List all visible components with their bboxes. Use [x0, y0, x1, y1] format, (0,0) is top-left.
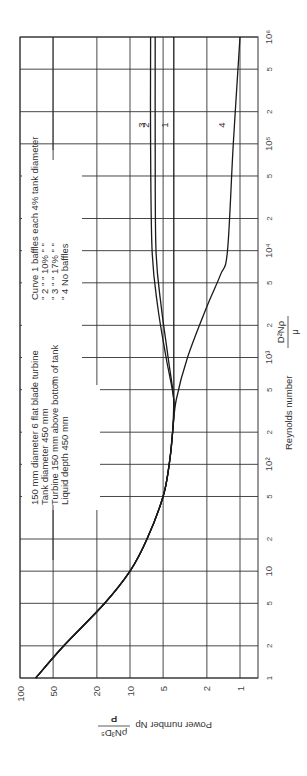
y-formula-denominator: ρN³D⁵: [101, 728, 127, 739]
reynolds-tick-label: 10³: [263, 351, 274, 365]
reynolds-tick-label: 2: [265, 216, 274, 221]
y-formula-numerator: P: [110, 714, 117, 725]
curve-label-3: 3: [136, 122, 147, 127]
np-tick-label: 100: [15, 686, 26, 702]
reynolds-tick-label: 10⁵: [263, 136, 274, 151]
reynolds-tick-label: 1: [265, 675, 274, 680]
reynolds-tick-label: 10⁶: [263, 30, 274, 45]
reynolds-tick-label: 5: [265, 280, 274, 285]
legend-item-4: " 4 No baffles: [59, 243, 70, 300]
annotation-line-4: Liquid depth 450 mm: [59, 416, 70, 505]
np-tick-label: 2: [201, 686, 212, 691]
reynolds-tick-label: 5: [265, 387, 274, 392]
reynolds-ticks: 125102510²2510³2510⁴2510⁵2510⁶: [263, 30, 274, 681]
reynolds-tick-label: 5: [265, 66, 274, 71]
reynolds-tick-label: 5: [265, 173, 274, 178]
np-tick-label: 20: [91, 686, 102, 697]
reynolds-tick-label: 2: [265, 536, 274, 541]
reynolds-tick-label: 2: [265, 429, 274, 434]
np-tick-label: 50: [48, 686, 59, 697]
curve-labels: 1234: [136, 122, 228, 127]
reynolds-tick-label: 2: [265, 109, 274, 114]
x-axis-title: Reynolds number D²Nρ μ: [275, 316, 300, 450]
x-formula-denominator: μ: [289, 329, 300, 334]
reynolds-tick-label: 2: [265, 323, 274, 328]
reynolds-tick-label: 5: [265, 601, 274, 606]
reynolds-tick-label: 10²: [263, 457, 274, 471]
reynolds-tick-label: 10⁴: [263, 243, 274, 258]
np-tick-label: 1: [235, 686, 246, 691]
curve-label-1: 1: [159, 122, 170, 127]
power-number-chart: 1234 125102510²2510³2510⁴2510⁵2510⁶ 1005…: [0, 0, 307, 776]
np-tick-label: 10: [125, 686, 136, 697]
y-axis-title: Power number Np P ρN³D⁵: [98, 714, 212, 739]
reynolds-tick-label: 5: [265, 494, 274, 499]
curve-label-4: 4: [216, 122, 227, 127]
x-formula-numerator: D²Nρ: [275, 320, 286, 343]
np-tick-label: 5: [158, 686, 169, 691]
reynolds-tick-label: 10: [263, 566, 274, 577]
x-axis-title-text: Reynolds number: [283, 376, 294, 450]
y-axis-title-text: Power number Np: [135, 720, 212, 731]
power-number-ticks: 100502010521: [15, 686, 246, 702]
reynolds-tick-label: 2: [265, 643, 274, 648]
